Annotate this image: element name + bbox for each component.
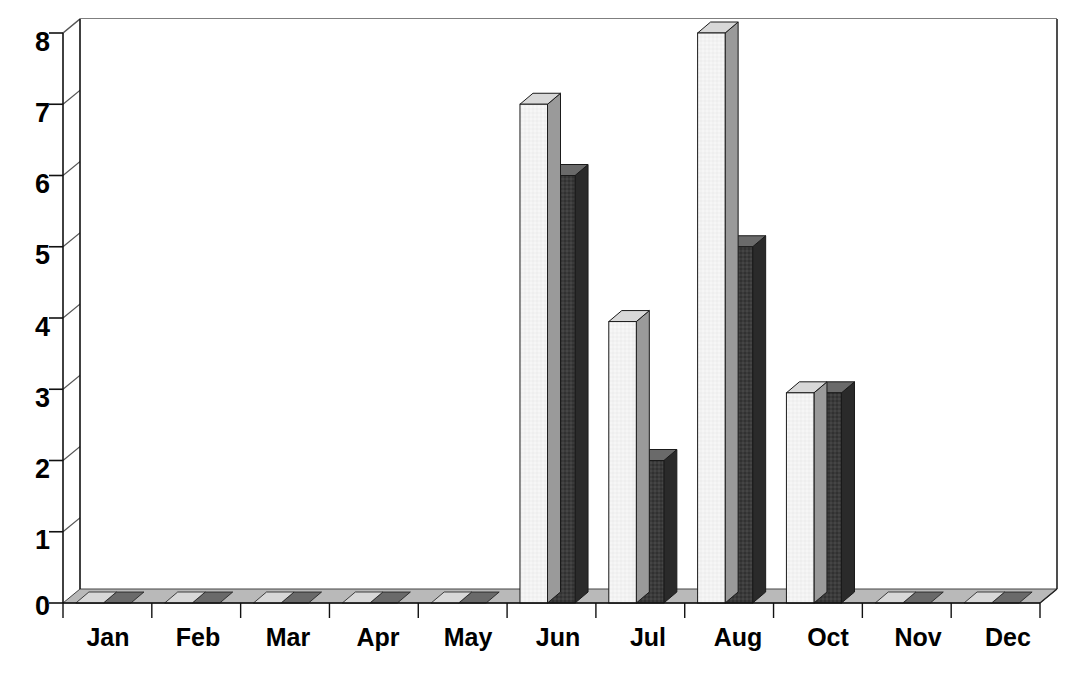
bar xyxy=(786,382,827,603)
bar xyxy=(609,311,650,603)
bar xyxy=(520,93,561,603)
bar-chart: 8 7 6 5 4 3 2 1 0 Jan Feb Mar Apr May Ju… xyxy=(0,0,1080,673)
plot-area xyxy=(0,0,1080,673)
bar xyxy=(698,22,739,603)
